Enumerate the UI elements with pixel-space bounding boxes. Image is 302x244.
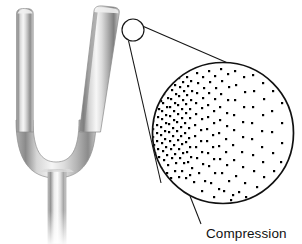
compression-label: Compression [206, 226, 287, 241]
left-tine [17, 9, 34, 133]
figure-root: Compression [0, 0, 302, 244]
tuning-fork [16, 6, 119, 244]
fork-stem-fade [46, 170, 68, 244]
magnified-view [152, 63, 294, 204]
callout-marker-circle [122, 19, 144, 41]
compression-callout: Compression [190, 196, 287, 241]
tuning-fork-illustration: Compression [0, 0, 302, 244]
